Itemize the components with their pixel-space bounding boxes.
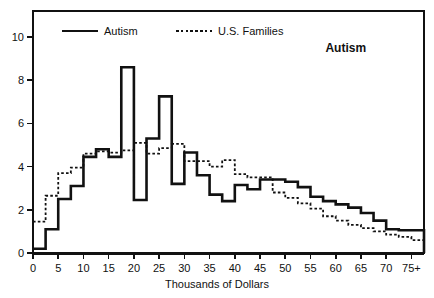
x-tick-label: 15: [103, 262, 115, 274]
y-tick-label: 4: [18, 161, 24, 173]
x-tick-label: 45: [254, 262, 266, 274]
x-tick-label: 75+: [402, 262, 421, 274]
x-tick-label: 60: [330, 262, 342, 274]
income-distribution-chart: 0246810 051015202530354045505560657075+ …: [0, 0, 434, 298]
annotation-label: Autism: [325, 41, 366, 55]
x-tick-label: 50: [279, 262, 291, 274]
x-tick-label: 20: [128, 262, 140, 274]
legend-label-autism: Autism: [104, 25, 138, 37]
x-tick-label: 70: [380, 262, 392, 274]
x-tick-label: 0: [30, 262, 36, 274]
y-tick-label: 2: [18, 204, 24, 216]
x-tick-label: 40: [229, 262, 241, 274]
chart-container: 0246810 051015202530354045505560657075+ …: [0, 0, 434, 298]
x-tick-label: 25: [153, 262, 165, 274]
x-tick-label: 30: [178, 262, 190, 274]
y-tick-label: 8: [18, 74, 24, 86]
x-tick-label: 55: [304, 262, 316, 274]
y-tick-label: 0: [18, 247, 24, 259]
x-axis-title: Thousands of Dollars: [165, 278, 269, 290]
x-tick-label: 10: [77, 262, 89, 274]
x-tick-label: 65: [355, 262, 367, 274]
y-tick-label: 6: [18, 117, 24, 129]
y-tick-label: 10: [12, 31, 24, 43]
x-tick-label: 35: [203, 262, 215, 274]
chart-annotations: Autism: [325, 41, 366, 55]
legend-label-u-s-families: U.S. Families: [218, 25, 284, 37]
x-tick-label: 5: [55, 262, 61, 274]
